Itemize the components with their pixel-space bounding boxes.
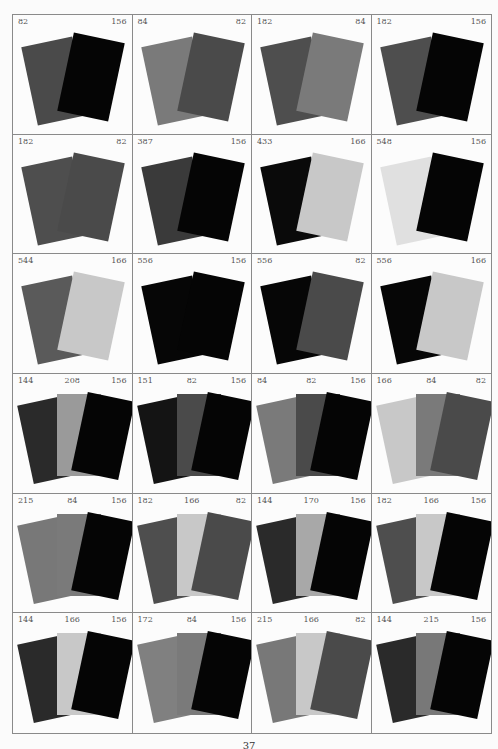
page-number: 37: [0, 740, 498, 749]
color-code-label: 82: [236, 497, 246, 505]
color-code-label: 182: [138, 497, 153, 505]
color-code-label: 82: [476, 377, 486, 385]
color-sample-cell: 21584156: [13, 494, 133, 614]
color-code-label: 166: [184, 497, 199, 505]
color-code-label: 156: [350, 497, 365, 505]
color-sample-cell: 8482: [133, 15, 253, 135]
color-code-label: 166: [111, 257, 126, 265]
color-code-label: 544: [18, 257, 33, 265]
color-code-label: 215: [18, 497, 33, 505]
color-code-label: 156: [231, 616, 246, 624]
color-code-label: 548: [377, 138, 392, 146]
color-code-label: 144: [18, 616, 33, 624]
color-code-label: 82: [306, 377, 316, 385]
color-sample-cell: 82156: [13, 15, 133, 135]
color-sample-cell: 18284: [252, 15, 372, 135]
color-sample-cell: 433166: [252, 135, 372, 255]
color-sample-cell: 556166: [372, 254, 492, 374]
color-code-label: 156: [111, 497, 126, 505]
color-code-label: 82: [355, 257, 365, 265]
color-sample-cell: 182156: [372, 15, 492, 135]
color-code-label: 82: [236, 18, 246, 26]
color-code-label: 166: [350, 138, 365, 146]
color-code-label: 84: [67, 497, 77, 505]
color-code-label: 84: [187, 616, 197, 624]
color-code-label: 144: [18, 377, 33, 385]
color-code-label: 156: [471, 497, 486, 505]
color-code-label: 170: [304, 497, 319, 505]
color-sample-cell: 548156: [372, 135, 492, 255]
color-sample-cell: 21516682: [252, 613, 372, 733]
color-code-label: 156: [111, 377, 126, 385]
color-code-label: 156: [231, 257, 246, 265]
color-sample-cell: 15182156: [133, 374, 253, 494]
color-code-label: 215: [424, 616, 439, 624]
color-code-label: 182: [377, 497, 392, 505]
color-card-grid: 8215684821828418215618282387156433166548…: [12, 14, 492, 734]
color-sample-cell: 144208156: [13, 374, 133, 494]
color-sample-cell: 17284156: [133, 613, 253, 733]
color-code-label: 156: [231, 138, 246, 146]
color-code-label: 182: [377, 18, 392, 26]
color-code-label: 556: [257, 257, 272, 265]
color-code-label: 156: [111, 18, 126, 26]
color-sample-cell: 556156: [133, 254, 253, 374]
color-code-label: 156: [471, 18, 486, 26]
color-code-label: 208: [65, 377, 80, 385]
color-sample-cell: 1668482: [372, 374, 492, 494]
color-code-label: 166: [304, 616, 319, 624]
color-code-label: 84: [138, 18, 148, 26]
color-code-label: 556: [377, 257, 392, 265]
color-code-label: 166: [377, 377, 392, 385]
color-code-label: 182: [18, 138, 33, 146]
color-code-label: 151: [138, 377, 153, 385]
color-sample-cell: 8482156: [252, 374, 372, 494]
color-code-label: 82: [116, 138, 126, 146]
color-code-label: 84: [257, 377, 267, 385]
color-code-label: 166: [424, 497, 439, 505]
color-code-label: 166: [471, 257, 486, 265]
document-page: 8215684821828418215618282387156433166548…: [0, 0, 498, 749]
color-code-label: 215: [257, 616, 272, 624]
color-sample-cell: 144215156: [372, 613, 492, 733]
color-code-label: 433: [257, 138, 272, 146]
color-code-label: 156: [471, 616, 486, 624]
color-code-label: 156: [231, 377, 246, 385]
color-code-label: 182: [257, 18, 272, 26]
color-sample-cell: 144170156: [252, 494, 372, 614]
color-code-label: 84: [426, 377, 436, 385]
color-sample-cell: 182166156: [372, 494, 492, 614]
color-code-label: 144: [257, 497, 272, 505]
color-code-label: 82: [355, 616, 365, 624]
color-code-label: 144: [377, 616, 392, 624]
color-sample-cell: 544166: [13, 254, 133, 374]
color-code-label: 156: [350, 377, 365, 385]
color-sample-cell: 18282: [13, 135, 133, 255]
color-sample-cell: 144166156: [13, 613, 133, 733]
color-code-label: 82: [187, 377, 197, 385]
color-code-label: 156: [471, 138, 486, 146]
color-code-label: 82: [18, 18, 28, 26]
color-sample-cell: 55682: [252, 254, 372, 374]
color-code-label: 156: [111, 616, 126, 624]
color-code-label: 166: [65, 616, 80, 624]
color-code-label: 172: [138, 616, 153, 624]
color-code-label: 556: [138, 257, 153, 265]
color-code-label: 387: [138, 138, 153, 146]
color-sample-cell: 387156: [133, 135, 253, 255]
color-sample-cell: 18216682: [133, 494, 253, 614]
color-code-label: 84: [355, 18, 365, 26]
